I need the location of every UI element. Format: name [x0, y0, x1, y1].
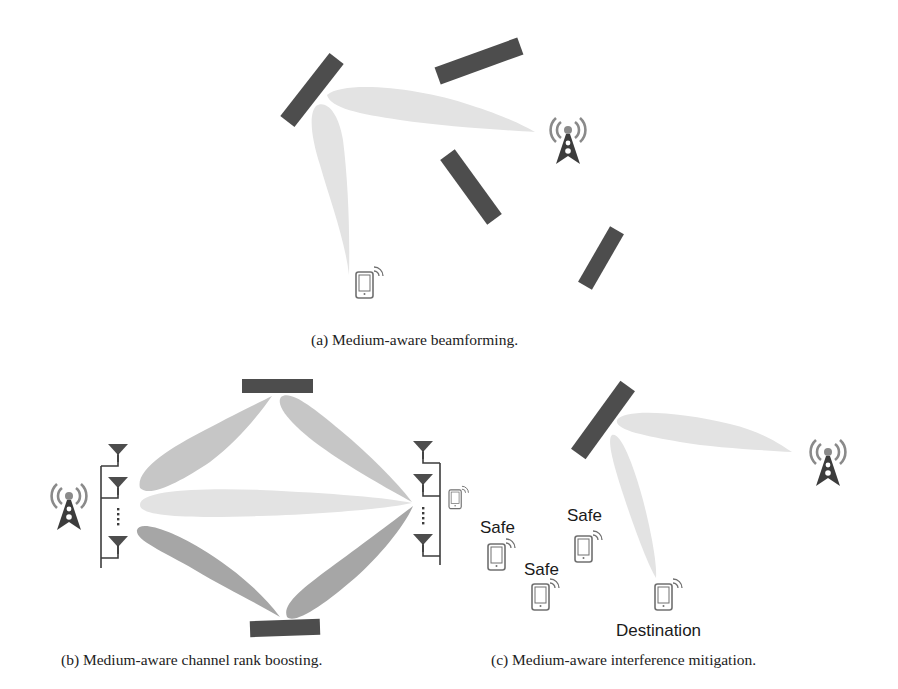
ellipsis-dots	[422, 507, 424, 524]
transmit-antenna-array	[101, 455, 118, 568]
beam-tx-to-bottom	[137, 526, 280, 617]
panel-c: Safe Safe Safe Destination	[480, 381, 845, 640]
panel-a	[280, 37, 624, 298]
antenna-icon	[108, 536, 128, 554]
reflector-top	[242, 379, 313, 393]
ellipsis-dots	[117, 508, 119, 525]
cell-tower-icon	[52, 484, 87, 530]
beam-reflector-to-tower	[327, 87, 535, 132]
caption-c: (c) Medium-aware interference mitigation…	[491, 651, 756, 669]
beam-top-to-rx	[280, 395, 412, 502]
smartphone-icon	[532, 579, 559, 610]
receive-antenna-array	[423, 452, 440, 565]
caption-b: (b) Medium-aware channel rank boosting.	[61, 651, 322, 669]
antenna-icon	[108, 477, 128, 495]
beam-bottom-to-rx	[286, 506, 413, 619]
cell-tower-icon	[551, 118, 586, 164]
reflector	[578, 226, 624, 289]
antenna-icon	[108, 444, 128, 462]
antenna-icon	[413, 534, 433, 552]
smartphone-icon	[575, 531, 602, 562]
antenna-icon	[413, 441, 433, 459]
beam-tx-to-rx	[140, 489, 412, 517]
reflector	[440, 149, 502, 224]
smartphone-icon	[488, 539, 515, 570]
reflector	[435, 37, 524, 84]
cell-tower-icon	[811, 440, 846, 486]
caption-a: (a) Medium-aware beamforming.	[311, 331, 518, 349]
smartphone-icon	[356, 267, 383, 298]
safe-label: Safe	[524, 560, 559, 579]
safe-label: Safe	[567, 506, 602, 525]
destination-label: Destination	[616, 621, 701, 640]
panel-b	[52, 379, 469, 637]
smartphone-icon	[655, 579, 682, 610]
smartphone-icon	[449, 486, 468, 508]
beam-tx-to-top	[140, 396, 272, 491]
beam-reflector-to-device	[312, 104, 350, 275]
safe-label: Safe	[480, 518, 515, 537]
antenna-icon	[413, 474, 433, 492]
beam-reflector-to-destination	[610, 435, 656, 578]
beam-reflector-to-tower	[617, 413, 792, 452]
reflector-bottom	[250, 619, 321, 637]
